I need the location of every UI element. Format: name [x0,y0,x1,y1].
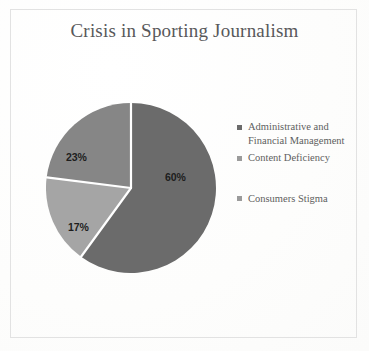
legend-item-label: Content Deficiency [248,151,359,165]
pie-chart: 60% 23% 17% [46,103,216,273]
pie-chart-figure: Crisis in Sporting Journalism 60% 23% 17… [0,0,369,351]
legend-swatch-icon [237,196,242,201]
legend-item-consumers-stigma[interactable]: Consumers Stigma [237,192,359,206]
legend-item-content-deficiency[interactable]: Content Deficiency [237,151,359,165]
pie-label-60-percent: 60% [165,171,186,183]
pie-slice-consumers-stigma[interactable] [47,103,131,188]
legend-swatch-icon [237,125,242,130]
legend-item-administrative-and-financial-management[interactable]: Administrative and Financial Management [237,120,359,147]
legend-swatch-icon [237,156,242,161]
pie-label-23-percent: 23% [66,151,87,163]
chart-legend: Administrative and Financial Management … [237,120,359,205]
chart-title: Crisis in Sporting Journalism [0,20,369,42]
pie-svg [46,103,216,273]
legend-item-label: Consumers Stigma [248,192,359,206]
legend-item-label: Administrative and Financial Management [248,120,359,147]
pie-label-17-percent: 17% [68,221,89,233]
